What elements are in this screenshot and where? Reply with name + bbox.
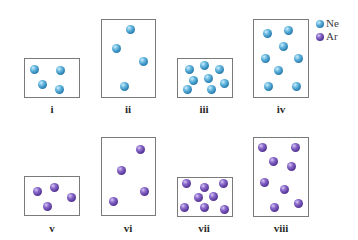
- neon-particle-icon: [294, 54, 303, 63]
- argon-particle-icon: [33, 187, 42, 196]
- argon-particle-icon: [180, 203, 189, 212]
- neon-particle-icon: [56, 66, 65, 75]
- argon-particle-icon: [316, 33, 324, 41]
- container-box-i: [24, 58, 80, 98]
- argon-particle-icon: [291, 143, 300, 152]
- neon-particle-icon: [200, 61, 209, 70]
- panel-label: iii: [199, 103, 208, 115]
- argon-particle-icon: [200, 183, 209, 192]
- neon-particle-icon: [139, 57, 148, 66]
- neon-particle-icon: [189, 76, 198, 85]
- panel-label: ii: [125, 103, 131, 115]
- legend-label-ne: Ne: [326, 18, 339, 29]
- neon-particle-icon: [316, 20, 324, 28]
- argon-particle-icon: [136, 145, 145, 154]
- neon-particle-icon: [207, 85, 216, 94]
- argon-particle-icon: [67, 193, 76, 202]
- argon-particle-icon: [220, 205, 229, 214]
- neon-particle-icon: [220, 79, 229, 88]
- argon-particle-icon: [200, 203, 209, 212]
- neon-particle-icon: [261, 54, 270, 63]
- panel-label: viii: [274, 222, 289, 234]
- argon-particle-icon: [194, 193, 203, 202]
- argon-particle-icon: [117, 166, 126, 175]
- neon-particle-icon: [183, 85, 192, 94]
- neon-particle-icon: [185, 65, 194, 74]
- neon-particle-icon: [263, 29, 272, 38]
- argon-particle-icon: [140, 187, 149, 196]
- neon-particle-icon: [215, 65, 224, 74]
- argon-particle-icon: [280, 185, 289, 194]
- neon-particle-icon: [55, 85, 64, 94]
- panel-label: i: [50, 103, 53, 115]
- argon-particle-icon: [219, 179, 228, 188]
- neon-particle-icon: [279, 42, 288, 51]
- neon-particle-icon: [274, 66, 283, 75]
- argon-particle-icon: [258, 143, 267, 152]
- legend-item-ne: Ne: [316, 18, 339, 29]
- neon-particle-icon: [120, 82, 129, 91]
- neon-particle-icon: [292, 82, 301, 91]
- panel-label: v: [49, 222, 55, 234]
- neon-particle-icon: [284, 26, 293, 35]
- panel-label: vii: [198, 222, 210, 234]
- neon-particle-icon: [204, 74, 213, 83]
- argon-particle-icon: [50, 183, 59, 192]
- argon-particle-icon: [269, 157, 278, 166]
- neon-particle-icon: [112, 44, 121, 53]
- panel-label: vi: [124, 222, 133, 234]
- neon-particle-icon: [126, 25, 135, 34]
- argon-particle-icon: [209, 192, 218, 201]
- argon-particle-icon: [260, 178, 269, 187]
- neon-particle-icon: [264, 82, 273, 91]
- argon-particle-icon: [43, 202, 52, 211]
- argon-particle-icon: [294, 199, 303, 208]
- neon-particle-icon: [38, 80, 47, 89]
- argon-particle-icon: [109, 197, 118, 206]
- legend-label-ar: Ar: [326, 31, 338, 42]
- argon-particle-icon: [182, 179, 191, 188]
- legend-item-ar: Ar: [316, 31, 338, 42]
- panel-label: iv: [277, 103, 286, 115]
- argon-particle-icon: [287, 162, 296, 171]
- neon-particle-icon: [30, 65, 39, 74]
- argon-particle-icon: [270, 203, 279, 212]
